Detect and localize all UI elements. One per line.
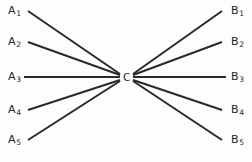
node-label-a1: A1 (8, 5, 21, 16)
node-label-b3-base: B (231, 70, 239, 83)
node-label-a5-base: A (8, 133, 16, 146)
edge-c-b4 (133, 80, 222, 110)
node-label-a3-base: A (8, 70, 16, 83)
node-label-b2: B2 (231, 36, 244, 47)
node-label-b1-base: B (231, 4, 239, 17)
node-label-a4-sub: 4 (16, 108, 21, 117)
edge-a5-c (28, 81, 120, 140)
node-label-c: C (123, 72, 131, 83)
edge-a4-c (28, 80, 120, 110)
node-label-b1: B1 (231, 5, 244, 16)
node-label-b5-base: B (231, 133, 239, 146)
node-label-a4-base: A (8, 103, 16, 116)
node-label-b2-sub: 2 (239, 40, 244, 49)
node-label-b3: B3 (231, 71, 244, 82)
edge-c-b1 (133, 11, 222, 74)
node-label-a2-sub: 2 (16, 40, 21, 49)
node-label-a5: A5 (8, 134, 21, 145)
edge-a1-c (28, 11, 120, 74)
node-label-a2-base: A (8, 35, 16, 48)
node-label-a2: A2 (8, 36, 21, 47)
node-label-b4-sub: 4 (239, 108, 244, 117)
node-label-b4-base: B (231, 103, 239, 116)
node-label-a1-sub: 1 (16, 9, 21, 18)
node-label-b4: B4 (231, 104, 244, 115)
edge-a2-c (28, 42, 120, 75)
diagram-canvas: A1 A2 A3 A4 A5 C B1 B2 B3 B4 B5 (0, 0, 252, 162)
node-label-b5: B5 (231, 134, 244, 145)
edge-c-b2 (133, 42, 222, 75)
edge-c-b5 (133, 81, 222, 140)
node-label-a3: A3 (8, 71, 21, 82)
node-label-a1-base: A (8, 4, 16, 17)
node-label-b2-base: B (231, 35, 239, 48)
node-label-a3-sub: 3 (16, 75, 21, 84)
node-label-a5-sub: 5 (16, 138, 21, 147)
node-label-b1-sub: 1 (239, 9, 244, 18)
node-label-b5-sub: 5 (239, 138, 244, 147)
node-label-b3-sub: 3 (239, 75, 244, 84)
node-label-a4: A4 (8, 104, 21, 115)
